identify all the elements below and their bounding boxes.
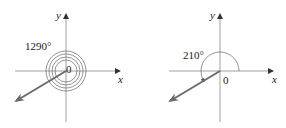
origin-label: 0 (223, 74, 229, 86)
diagram-canvas: y x 0 1290° y x 0 210° (0, 0, 286, 128)
y-axis-label: y (55, 9, 61, 21)
origin-label: 0 (66, 63, 72, 75)
y-axis-label: y (209, 9, 215, 21)
figure-left: y x 0 1290° (15, 9, 123, 122)
angle-label: 210° (183, 49, 204, 61)
x-axis-label: x (117, 73, 123, 85)
terminal-ray (170, 71, 220, 101)
figure-right: y x 0 210° (169, 9, 277, 122)
x-axis-label: x (271, 73, 277, 85)
angle-label: 1290° (25, 40, 51, 52)
